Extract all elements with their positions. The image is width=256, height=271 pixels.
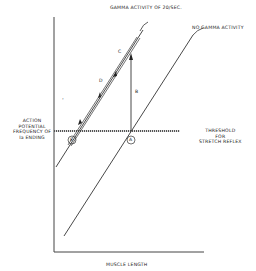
stray-mark: • (62, 97, 64, 103)
x-axis-label: MUSCLE LENGTH (106, 262, 148, 268)
threshold-label-line: THRESHOLD (199, 128, 242, 134)
gamma-activity-label: GAMMA ACTIVITY OF 20/SEC. (110, 5, 182, 11)
y-axis-label-line: FREQUENCY OF (13, 129, 51, 135)
y-axis-label-line: Ia ENDING (13, 135, 51, 141)
point-c-label: C (118, 49, 121, 55)
gamma-activity-line (56, 30, 143, 167)
y-axis-label: ACTION POTENTIAL FREQUENCY OF Ia ENDING (13, 118, 51, 140)
point-e-label: E (70, 137, 73, 143)
no-gamma-activity-line (64, 35, 193, 236)
point-a-label: A (129, 137, 132, 143)
gamma-label-leader (140, 22, 148, 31)
point-d-label: D (99, 78, 103, 84)
arrow-icon (98, 92, 101, 98)
no-gamma-activity-label: NO GAMMA ACTIVITY (192, 25, 244, 31)
threshold-label-line: STRETCH REFLEX (199, 139, 242, 145)
threshold-label: THRESHOLD FOR STRETCH REFLEX (199, 128, 242, 145)
point-b-label: B (135, 89, 138, 95)
